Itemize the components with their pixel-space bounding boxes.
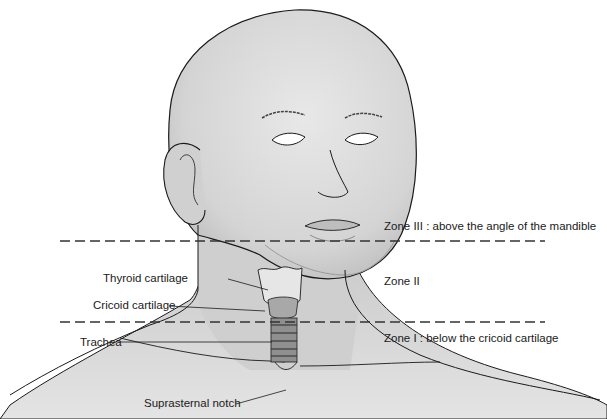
trachea-label: Trachea [80, 336, 122, 349]
neck-zones-diagram: Zone III : above the angle of the mandib… [0, 0, 607, 419]
suprasternal-notch-label: Suprasternal notch [144, 397, 241, 410]
zone-3-label: Zone III : above the angle of the mandib… [384, 220, 596, 233]
cricoid-cartilage-label: Cricoid cartilage [93, 299, 175, 312]
thyroid-cartilage-label: Thyroid cartilage [103, 272, 188, 285]
zone-2-label: Zone II [384, 275, 420, 288]
cricoid-cartilage [268, 297, 298, 319]
zone-1-label: Zone I : below the cricoid cartilage [384, 332, 559, 345]
head-neck-illustration [0, 0, 607, 419]
trachea [271, 318, 297, 362]
